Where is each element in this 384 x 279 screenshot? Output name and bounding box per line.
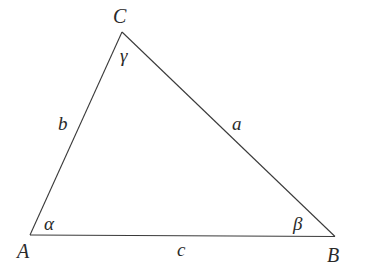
side-c-edge xyxy=(30,235,335,237)
side-label-c: c xyxy=(177,239,186,260)
angle-label-alpha: α xyxy=(44,213,55,234)
side-b-edge xyxy=(30,32,122,235)
vertex-label-a: A xyxy=(15,240,30,262)
angle-label-beta: β xyxy=(292,213,303,234)
side-label-b: b xyxy=(58,113,68,134)
side-label-a: a xyxy=(232,113,242,134)
angle-label-gamma: γ xyxy=(120,45,128,66)
vertex-label-b: B xyxy=(327,244,339,266)
vertex-label-c: C xyxy=(113,5,127,27)
triangle-diagram: C A B b a c γ α β xyxy=(0,0,384,279)
side-a-edge xyxy=(122,32,335,237)
